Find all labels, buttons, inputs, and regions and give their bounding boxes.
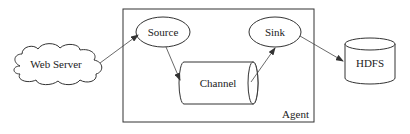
sink-node: Sink: [249, 17, 301, 47]
edge-source-to-channel: [166, 47, 180, 80]
hdfs-node: HDFS: [345, 38, 395, 84]
channel-label: Channel: [200, 77, 237, 89]
sink-label: Sink: [265, 26, 286, 38]
edge-sink-to-hdfs: [300, 36, 343, 61]
agent-label: Agent: [282, 108, 309, 120]
channel-node: Channel: [179, 62, 258, 104]
source-label: Source: [148, 26, 179, 38]
edge-webserver-to-source: [100, 35, 138, 63]
flume-agent-diagram: Agent Web Server Source Sink Channel HDF…: [0, 0, 410, 134]
web-server-cloud: Web Server: [14, 44, 102, 85]
hdfs-label: HDFS: [356, 57, 384, 69]
web-server-label: Web Server: [30, 58, 82, 70]
source-node: Source: [136, 17, 190, 47]
